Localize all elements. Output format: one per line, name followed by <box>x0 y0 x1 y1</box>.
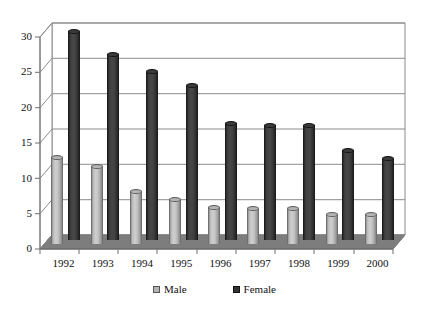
bar-female-1997[interactable] <box>264 125 276 239</box>
bar-female-1994[interactable] <box>146 72 158 240</box>
bar-chart: 30 25 20 15 10 5 0 199219931994199519961… <box>0 0 429 309</box>
y-tick-label: 30 <box>6 31 32 42</box>
bar-female-1998[interactable] <box>303 125 315 239</box>
bar-male-1994[interactable] <box>130 191 142 244</box>
bar-body <box>68 31 80 239</box>
bar-body <box>264 125 276 239</box>
x-tick-label-1992: 1992 <box>42 258 86 269</box>
y-tick-label: 5 <box>6 208 32 219</box>
bar-body <box>107 54 119 240</box>
bar-cap <box>365 212 377 217</box>
bar-male-2000[interactable] <box>365 214 377 244</box>
bar-cap <box>342 148 354 153</box>
x-tick-label-1993: 1993 <box>81 258 125 269</box>
x-tick-label-1996: 1996 <box>199 258 243 269</box>
bar-body <box>303 125 315 239</box>
bar-cap <box>208 205 220 210</box>
bar-body <box>130 191 142 244</box>
bar-female-2000[interactable] <box>382 159 394 240</box>
bar-body <box>51 157 63 244</box>
bar-cap <box>225 121 237 126</box>
x-tick-label-1994: 1994 <box>120 258 164 269</box>
bar-body <box>146 72 158 240</box>
bar-female-1999[interactable] <box>342 150 354 240</box>
bar-body <box>225 123 237 240</box>
legend-swatch-icon <box>153 286 160 293</box>
bar-male-1995[interactable] <box>169 200 181 245</box>
bar-cap <box>107 52 119 57</box>
bar-cap <box>382 156 394 161</box>
y-tick-label: 15 <box>6 137 32 148</box>
x-tick-label-1995: 1995 <box>159 258 203 269</box>
legend-label: Female <box>244 283 276 295</box>
x-tick-label-1997: 1997 <box>238 258 282 269</box>
x-tick-marks <box>40 249 393 254</box>
y-tick-label: 10 <box>6 173 32 184</box>
y-tick-marks <box>35 37 40 249</box>
bar-body <box>91 166 103 244</box>
bar-body <box>326 214 338 244</box>
legend-item-female[interactable]: Female <box>233 283 276 295</box>
bar-male-1992[interactable] <box>51 157 63 244</box>
x-tick-label-1999: 1999 <box>316 258 360 269</box>
bar-body <box>186 86 198 240</box>
legend-swatch-icon <box>233 286 240 293</box>
bar-cap <box>326 212 338 217</box>
x-tick-label-2000: 2000 <box>355 258 399 269</box>
bar-cap <box>264 123 276 128</box>
bar-cap <box>130 189 142 194</box>
bar-male-1997[interactable] <box>247 209 259 244</box>
bar-body <box>287 209 299 244</box>
bar-female-1993[interactable] <box>107 54 119 240</box>
y-tick-label: 20 <box>6 102 32 113</box>
x-tick-label-1998: 1998 <box>277 258 321 269</box>
y-tick-label: 0 <box>6 243 32 254</box>
y-tick-label: 25 <box>6 66 32 77</box>
bar-male-1999[interactable] <box>326 214 338 244</box>
bar-cap <box>303 123 315 128</box>
bar-female-1995[interactable] <box>186 86 198 240</box>
legend-label: Male <box>164 283 187 295</box>
bar-male-1998[interactable] <box>287 209 299 244</box>
bar-body <box>208 207 220 244</box>
bar-body <box>365 214 377 244</box>
bar-body <box>247 209 259 244</box>
bar-cap <box>91 164 103 169</box>
bar-body <box>382 159 394 240</box>
bar-body <box>342 150 354 240</box>
bar-body <box>169 200 181 245</box>
bar-cap <box>68 29 80 34</box>
bar-female-1992[interactable] <box>68 31 80 239</box>
bar-male-1996[interactable] <box>208 207 220 244</box>
chart-legend: MaleFemale <box>0 283 429 295</box>
legend-item-male[interactable]: Male <box>153 283 187 295</box>
bar-male-1993[interactable] <box>91 166 103 244</box>
bar-female-1996[interactable] <box>225 123 237 240</box>
bar-cap <box>51 155 63 160</box>
